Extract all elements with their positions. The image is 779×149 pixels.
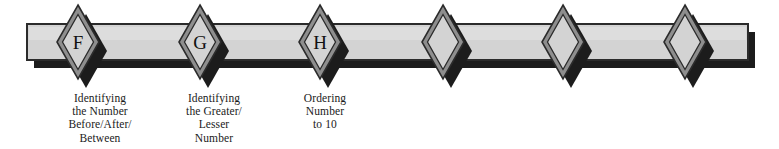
label-identifying-number-before-after-between: Identifyingthe NumberBefore/After/Betwee… bbox=[35, 92, 165, 145]
label-line: Number bbox=[260, 105, 390, 118]
label-line: Ordering bbox=[260, 92, 390, 105]
label-line: Identifying bbox=[35, 92, 165, 105]
label-row: Identifyingthe NumberBefore/After/Betwee… bbox=[0, 0, 779, 149]
label-line: Between bbox=[35, 132, 165, 145]
label-line: the Number bbox=[35, 105, 165, 118]
label-line: Number bbox=[149, 132, 279, 145]
label-ordering-number-to-10: OrderingNumberto 10 bbox=[260, 92, 390, 132]
label-line: Before/After/ bbox=[35, 118, 165, 131]
label-line: to 10 bbox=[260, 118, 390, 131]
diagram-canvas: FGH Identifyingthe NumberBefore/After/Be… bbox=[0, 0, 779, 149]
